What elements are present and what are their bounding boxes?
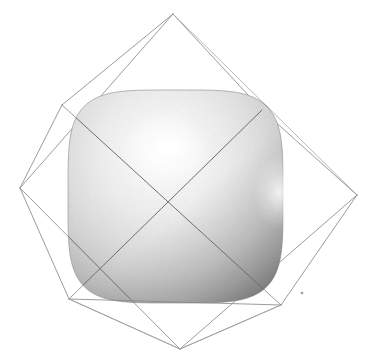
figure-canvas: Rounded superellipsoid inscribed in an o… xyxy=(0,0,378,358)
front-edge-lower-left-chamfer xyxy=(69,299,281,349)
wireframe-front xyxy=(69,299,281,349)
geometric-figure-svg xyxy=(0,0,378,358)
solid-specular-core xyxy=(150,132,190,162)
ink-speck xyxy=(301,292,304,295)
edge-left-to-lower-left xyxy=(20,188,69,299)
edge-upper-left-to-left xyxy=(20,105,62,188)
solid-sheen xyxy=(209,134,297,258)
